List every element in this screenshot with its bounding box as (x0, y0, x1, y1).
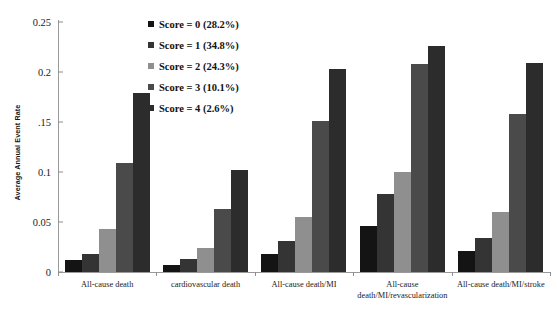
bar-group (452, 22, 550, 272)
x-axis-category-label: cardiovascular death (151, 280, 261, 291)
legend-item: Score = 4 (2.6%) (148, 98, 239, 118)
x-axis-category-label: All-cause death/MI (257, 280, 352, 291)
legend-item: Score = 2 (24.3%) (148, 56, 239, 76)
bar-group (255, 22, 353, 272)
bar (526, 63, 543, 272)
x-axis-tick-mark (58, 272, 59, 276)
y-axis-tick-label: 0.1 (38, 167, 58, 178)
legend-item: Score = 1 (34.8%) (148, 35, 239, 55)
bar (411, 64, 428, 272)
legend-swatch-icon (148, 105, 154, 111)
bar-group-bars (255, 22, 353, 272)
bar (475, 238, 492, 272)
plot-area: 0.250.2.150.10.050All-cause deathcardiov… (58, 22, 550, 272)
legend-swatch-icon (148, 63, 154, 69)
x-axis-tick-mark (452, 272, 453, 276)
bar (492, 212, 509, 272)
legend-item-label: Score = 2 (24.3%) (159, 61, 239, 72)
bar-chart: Average Annual Event Rate 0.250.2.150.10… (0, 0, 557, 332)
x-axis-tick-mark (255, 272, 256, 276)
bar-group-bars (58, 22, 156, 272)
bar (133, 93, 150, 272)
bar-group (353, 22, 451, 272)
chart-legend: Score = 0 (28.2%)Score = 1 (34.8%)Score … (148, 14, 239, 119)
bar (329, 69, 346, 272)
x-axis-tick-mark (550, 272, 551, 276)
bar (509, 114, 526, 272)
x-axis-line (58, 272, 550, 273)
bar (82, 254, 99, 272)
y-axis-title: Average Annual Event Rate (13, 78, 22, 228)
bar (214, 209, 231, 272)
bar (312, 121, 329, 272)
bar (65, 260, 82, 272)
legend-item-label: Score = 4 (2.6%) (159, 103, 234, 114)
legend-swatch-icon (148, 84, 154, 90)
bar (394, 172, 411, 272)
bar (360, 226, 377, 272)
legend-item-label: Score = 3 (10.1%) (159, 82, 239, 93)
bar (197, 248, 214, 272)
legend-item: Score = 3 (10.1%) (148, 77, 239, 97)
bar-group-bars (452, 22, 550, 272)
y-axis-tick-label: 0.25 (33, 17, 58, 28)
legend-swatch-icon (148, 21, 154, 27)
bar-group-bars (353, 22, 451, 272)
legend-swatch-icon (148, 42, 154, 48)
bar (116, 163, 133, 272)
y-axis-tick-label: 0.2 (38, 67, 58, 78)
legend-item: Score = 0 (28.2%) (148, 14, 239, 34)
x-axis-category-label: All-cause death/MI/stroke (438, 280, 557, 291)
bar (278, 241, 295, 272)
bar (231, 170, 248, 272)
bar (99, 229, 116, 272)
bar (180, 259, 197, 272)
y-axis-tick-label: 0 (46, 267, 58, 278)
x-axis-tick-mark (156, 272, 157, 276)
x-axis-category-label: All-cause death (60, 280, 155, 291)
bar-group (58, 22, 156, 272)
bar (377, 194, 394, 272)
y-axis-tick-label: 0.05 (33, 217, 58, 228)
legend-item-label: Score = 1 (34.8%) (159, 40, 239, 51)
y-axis-tick-label: .15 (38, 117, 58, 128)
bar (295, 217, 312, 272)
legend-item-label: Score = 0 (28.2%) (159, 19, 239, 30)
x-axis-tick-mark (353, 272, 354, 276)
bar (163, 265, 180, 272)
bar (261, 254, 278, 272)
bar (458, 251, 475, 272)
bar (428, 46, 445, 272)
